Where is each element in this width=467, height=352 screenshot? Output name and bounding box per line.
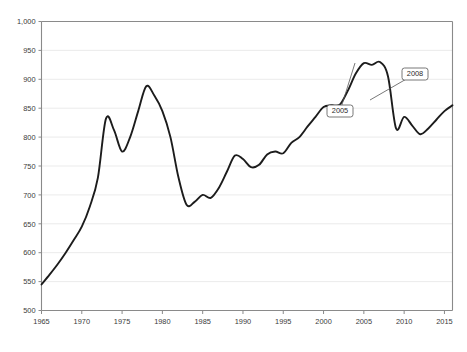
y-tick-label: 550 bbox=[23, 277, 35, 286]
y-axis-ticks: 1,000950900850800750700650600550500 bbox=[17, 17, 42, 315]
x-tick-label: 2010 bbox=[396, 317, 412, 326]
line-chart: 1,000950900850800750700650600550500 1965… bbox=[0, 0, 467, 352]
y-tick-label: 500 bbox=[23, 306, 35, 315]
annotations: 20052008 bbox=[327, 63, 428, 117]
data-series bbox=[42, 61, 453, 284]
y-tick-label: 850 bbox=[23, 104, 35, 113]
gridlines bbox=[42, 22, 453, 282]
y-tick-label: 650 bbox=[23, 220, 35, 229]
x-tick-label: 1980 bbox=[154, 317, 170, 326]
y-tick-label: 600 bbox=[23, 248, 35, 257]
x-tick-label: 1970 bbox=[74, 317, 90, 326]
y-tick-label: 800 bbox=[23, 133, 35, 142]
y-tick-label: 1,000 bbox=[17, 17, 36, 26]
y-tick-label: 750 bbox=[23, 162, 35, 171]
chart-container: 1,000950900850800750700650600550500 1965… bbox=[0, 0, 467, 352]
annotation-label: 2008 bbox=[407, 69, 423, 78]
x-tick-label: 1975 bbox=[114, 317, 130, 326]
annotation-leader-line bbox=[340, 63, 355, 111]
series-line bbox=[42, 61, 453, 284]
annotation-label: 2005 bbox=[332, 106, 348, 115]
x-tick-label: 2015 bbox=[436, 317, 452, 326]
x-tick-label: 2000 bbox=[315, 317, 331, 326]
y-tick-label: 950 bbox=[23, 46, 35, 55]
x-tick-label: 1995 bbox=[275, 317, 291, 326]
x-tick-label: 1990 bbox=[235, 317, 251, 326]
x-tick-label: 1985 bbox=[194, 317, 210, 326]
x-axis-ticks: 1965197019751980198519901995200020052010… bbox=[33, 311, 452, 326]
y-tick-label: 900 bbox=[23, 75, 35, 84]
x-tick-label: 1965 bbox=[33, 317, 49, 326]
x-tick-label: 2005 bbox=[356, 317, 372, 326]
y-tick-label: 700 bbox=[23, 191, 35, 200]
